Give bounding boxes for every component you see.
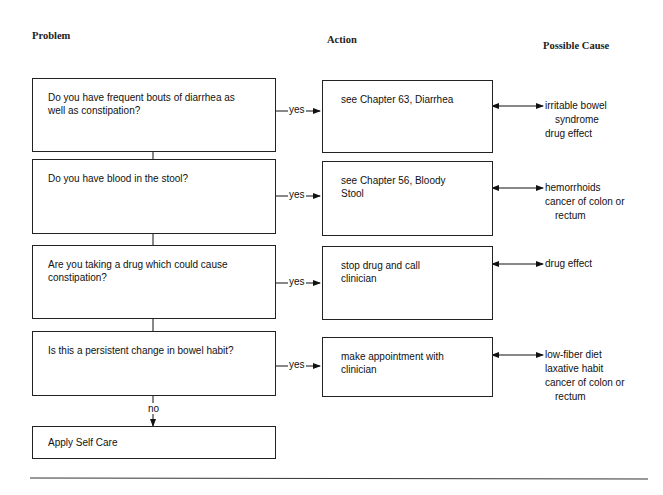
problem-box-persistent-change: Is this a persistent change in bowel hab… (32, 331, 276, 396)
cause-item: low-fiber diet (545, 348, 625, 362)
action-text-line: see Chapter 63, Diarrhea (341, 93, 492, 106)
cause-item: rectum (545, 209, 625, 223)
cause-item: cancer of colon or (545, 376, 625, 390)
cause-item: hemorrhoids (545, 181, 625, 195)
action-text-line: see Chapter 56, Bloody (341, 174, 492, 187)
cause-list-4: low-fiber diet laxative habit cancer of … (545, 348, 625, 404)
yes-label-3: yes (288, 276, 306, 287)
cause-item: irritable bowel (545, 99, 607, 113)
problem-text-line: well as constipation? (48, 104, 275, 117)
cause-list-2: hemorrhoids cancer of colon or rectum (545, 181, 625, 223)
problem-text-line: Are you taking a drug which could cause (48, 258, 275, 271)
action-text-line: stop drug and call (341, 259, 492, 272)
problem-text-line: constipation? (48, 271, 275, 284)
cause-list-3: drug effect (545, 257, 592, 271)
problem-text-line: Is this a persistent change in bowel hab… (48, 344, 275, 357)
action-box-make-appointment: make appointment with clinician (322, 337, 493, 397)
action-box-stop-drug: stop drug and call clinician (322, 246, 493, 320)
cause-item: drug effect (545, 257, 592, 271)
problem-box-blood-in-stool: Do you have blood in the stool? (32, 159, 276, 234)
problem-box-diarrhea-constipation: Do you have frequent bouts of diarrhea a… (32, 78, 276, 152)
problem-box-drug-constipation: Are you taking a drug which could cause … (32, 245, 276, 319)
action-text-line: Stool (341, 187, 492, 200)
action-text-line: clinician (341, 272, 492, 285)
yes-label-2: yes (288, 189, 306, 200)
cause-item: laxative habit (545, 362, 625, 376)
action-box-chapter-56: see Chapter 56, Bloody Stool (322, 161, 493, 236)
yes-label-1: yes (288, 104, 306, 115)
cause-item: rectum (545, 390, 625, 404)
action-text-line: clinician (341, 363, 492, 376)
final-text: Apply Self Care (48, 436, 275, 449)
cause-item: cancer of colon or (545, 195, 625, 209)
yes-label-4: yes (288, 359, 306, 370)
action-text-line: make appointment with (341, 350, 492, 363)
cause-item: syndrome (545, 113, 607, 127)
problem-text-line: Do you have blood in the stool? (48, 172, 275, 185)
no-label-4: no (147, 403, 160, 414)
problem-text-line: Do you have frequent bouts of diarrhea a… (48, 91, 275, 104)
cause-item: drug effect (545, 127, 607, 141)
final-box-apply-self-care: Apply Self Care (32, 426, 276, 459)
action-box-chapter-63: see Chapter 63, Diarrhea (322, 80, 493, 153)
cause-list-1: irritable bowel syndrome drug effect (545, 99, 607, 141)
